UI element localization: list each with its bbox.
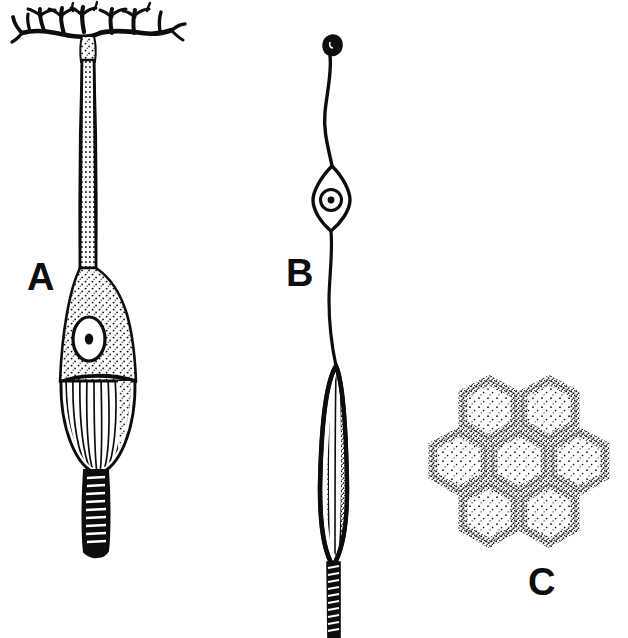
panel-b-bipolar-spindle-cell	[313, 35, 350, 638]
surrounding-hexagon	[463, 484, 515, 543]
panel-c-hexagonal-cell-mosaic	[433, 380, 605, 543]
surrounding-hexagon	[553, 432, 605, 491]
apical-knob-b	[323, 35, 342, 55]
panel-label-b: B	[286, 254, 313, 292]
central-hexagon	[493, 432, 545, 491]
dendritic-tuft	[12, 2, 185, 42]
surrounding-hexagon	[463, 380, 515, 439]
banded-tail-a	[83, 470, 110, 557]
wavy-fiber-b	[325, 56, 332, 166]
panel-label-c: C	[528, 563, 555, 601]
surrounding-hexagon	[523, 484, 575, 543]
striated-rod-b	[320, 366, 348, 566]
lower-fiber-b	[329, 231, 336, 366]
surrounding-hexagon	[523, 380, 575, 439]
panel-label-a: A	[27, 258, 54, 296]
striated-basal-region	[61, 378, 138, 474]
banded-fiber-b	[327, 562, 340, 638]
nucleolus-b	[328, 197, 335, 204]
surrounding-hexagon	[433, 432, 485, 491]
figure-illustration	[0, 0, 628, 638]
nucleolus-a	[85, 333, 93, 344]
figure-container: A B C	[0, 0, 628, 638]
apical-cone	[80, 36, 95, 62]
